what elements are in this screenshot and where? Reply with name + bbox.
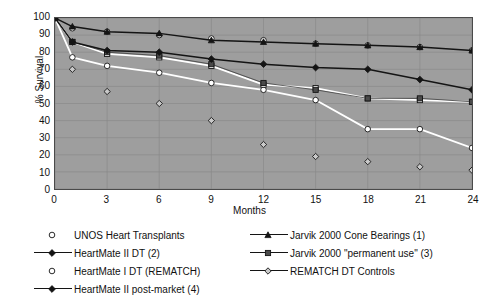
x-tick-label: 3 [91, 195, 121, 205]
data-point [70, 55, 76, 61]
data-point [49, 232, 55, 238]
data-point [365, 96, 370, 101]
legend-item-label: HeartMate I DT (REMATCH) [74, 266, 200, 277]
survival-chart: % Survival 1009080706050403020100 036912… [0, 0, 499, 222]
data-point [313, 97, 319, 103]
legend-column-left: UNOS Heart TransplantsHeartMate II DT (2… [32, 226, 242, 298]
legend-item[interactable]: UNOS Heart Transplants [32, 226, 242, 244]
legend-item[interactable]: HeartMate II DT (2) [32, 244, 242, 262]
x-tick-label: 21 [406, 195, 436, 205]
data-point [104, 88, 110, 94]
y-tick-label: 30 [22, 133, 50, 143]
legend-glyph-filled-triangle-icon [263, 230, 273, 240]
legend-glyph-open-diamond-icon [263, 266, 273, 276]
x-axis-label: Months [0, 205, 499, 216]
legend-marker [248, 226, 290, 244]
x-tick-label: 18 [353, 195, 383, 205]
legend-item-label: Jarvik 2000 "permanent use" (3) [290, 248, 433, 259]
chart-legend: UNOS Heart TransplantsHeartMate II DT (2… [0, 226, 499, 298]
legend-item-label: UNOS Heart Transplants [74, 230, 185, 241]
y-tick-label: 40 [22, 116, 50, 126]
legend-item-label: HeartMate II DT (2) [74, 248, 160, 259]
legend-item-label: Jarvik 2000 Cone Bearings (1) [290, 230, 425, 241]
data-point [261, 87, 267, 93]
legend-item-label: REMATCH DT Controls [290, 266, 395, 277]
legend-glyph-open-circle-icon [47, 266, 57, 276]
data-point [469, 99, 472, 104]
data-point [417, 126, 423, 132]
y-tick-label: 90 [22, 29, 50, 39]
legend-glyph-filled-square-icon [263, 248, 273, 258]
x-tick-label: 6 [144, 195, 174, 205]
data-point [260, 141, 266, 147]
legend-marker [32, 226, 74, 244]
legend-marker [248, 244, 290, 262]
legend-marker [32, 244, 74, 262]
legend-column-right: Jarvik 2000 Cone Bearings (1)Jarvik 2000… [248, 226, 496, 280]
y-tick-label: 80 [22, 47, 50, 57]
chart-screenshot: % Survival 1009080706050403020100 036912… [0, 0, 499, 298]
data-point [69, 66, 75, 72]
data-point [265, 232, 271, 238]
x-tick-label: 0 [39, 195, 69, 205]
y-tick-label: 10 [22, 168, 50, 178]
legend-marker [32, 280, 74, 298]
plot-area [54, 17, 473, 190]
y-tick-label: 70 [22, 64, 50, 74]
data-point [265, 250, 270, 255]
legend-glyph-filled-diamond-icon [47, 248, 57, 258]
x-tick-label: 24 [458, 195, 488, 205]
data-point [265, 268, 271, 274]
y-tick-label: 60 [22, 81, 50, 91]
data-point [365, 126, 371, 132]
legend-item[interactable]: REMATCH DT Controls [248, 262, 496, 280]
legend-glyph-open-circle-icon [47, 230, 57, 240]
data-point [312, 153, 318, 159]
x-tick-label: 12 [249, 195, 279, 205]
legend-item-label: HeartMate II post-market (4) [74, 284, 200, 295]
y-tick-label: 100 [22, 12, 50, 22]
data-point [49, 286, 56, 293]
legend-marker [32, 262, 74, 280]
data-point [261, 80, 266, 85]
data-point [208, 117, 214, 123]
data-point [417, 164, 423, 170]
data-point [365, 158, 371, 164]
data-point [49, 268, 55, 274]
data-point [312, 64, 319, 71]
legend-item[interactable]: Jarvik 2000 Cone Bearings (1) [248, 226, 496, 244]
data-series-layer [55, 18, 472, 189]
x-tick-label: 9 [196, 195, 226, 205]
series-1 [55, 18, 472, 53]
y-axis-ticks: 1009080706050403020100 [18, 0, 50, 222]
data-point [209, 80, 215, 86]
y-tick-label: 20 [22, 150, 50, 160]
legend-item[interactable]: Jarvik 2000 "permanent use" (3) [248, 244, 496, 262]
legend-marker [248, 262, 290, 280]
data-point [469, 167, 472, 173]
y-tick-label: 50 [22, 99, 50, 109]
data-point [469, 145, 472, 151]
data-point [260, 61, 267, 68]
legend-glyph-small-filled-diamond-icon [47, 284, 57, 294]
data-point [104, 63, 110, 69]
data-point [364, 66, 371, 73]
x-tick-label: 15 [301, 195, 331, 205]
data-point [49, 250, 56, 257]
data-point [416, 76, 423, 83]
legend-item[interactable]: HeartMate II post-market (4) [32, 280, 242, 298]
data-point [469, 86, 472, 93]
data-point [156, 70, 162, 76]
data-point [313, 87, 318, 92]
data-point [417, 96, 422, 101]
data-point [156, 100, 162, 106]
legend-item[interactable]: HeartMate I DT (REMATCH) [32, 262, 242, 280]
series-0 [55, 18, 472, 53]
series-6 [69, 66, 472, 173]
